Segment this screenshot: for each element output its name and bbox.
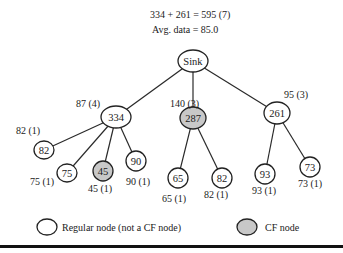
node-label: 287 [185,113,201,124]
node-label: 82 [217,173,228,184]
node-sink: Sink [178,50,208,72]
edge-sink-n261 [193,61,277,113]
node-annotation-n93: 93 (1) [252,185,276,197]
node-label: 93 [260,169,271,180]
node-annotation-n65: 65 (1) [162,193,186,205]
sum-label: 334 + 261 = 595 (7) [150,9,230,21]
node-annotation-n261: 95 (3) [284,89,308,101]
node-n82b: 82 [212,168,232,188]
nodes-layer: Sink3342872618275459065829373 [34,50,320,188]
node-n334: 334 [101,106,131,128]
legend-cf-swatch [237,219,257,235]
node-n90: 90 [126,151,146,171]
node-label: 75 [62,168,73,179]
node-n75: 75 [57,164,77,182]
bottom-rule [0,245,343,248]
node-label: 45 [98,166,109,177]
node-annotation-n45: 45 (1) [88,183,112,195]
node-n65: 65 [168,168,188,188]
node-n73: 73 [300,157,320,177]
avg-label: Avg. data = 85.0 [152,24,218,35]
node-label: 65 [173,173,184,184]
node-label: 82 [39,145,50,156]
node-label: 90 [131,156,142,167]
legend-cf-label: CF node [265,222,300,233]
node-label: 261 [269,108,285,119]
node-annotation-n73: 73 (1) [298,178,322,190]
legend-regular-label: Regular node (not a CF node) [62,222,181,234]
node-label: 334 [108,112,125,123]
node-n45: 45 [93,161,113,181]
node-label: 73 [305,162,316,173]
node-annotation-n82b: 82 (1) [204,189,228,201]
node-n82a: 82 [34,141,54,159]
tree-diagram: 334 + 261 = 595 (7) Avg. data = 85.0 Sin… [0,0,343,253]
node-n93: 93 [255,164,275,184]
node-annotation-n90: 90 (1) [126,176,150,188]
node-n287: 287 [180,107,206,129]
node-annotation-n82a: 82 (1) [16,125,40,137]
node-annotation-n287: 140 (3) [170,98,199,110]
node-n261: 261 [264,102,290,124]
node-annotation-n334: 87 (4) [76,98,100,110]
node-annotation-n75: 75 (1) [30,176,54,188]
node-label: Sink [183,56,203,67]
legend-regular-swatch [37,219,57,235]
